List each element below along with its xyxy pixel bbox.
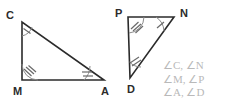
angle-mark-P: [129, 17, 144, 33]
vertex-label-M: M: [13, 86, 22, 97]
vertex-label-C: C: [6, 10, 14, 21]
angle-correspondence-list: ∠C, ∠N ∠M, ∠P ∠A, ∠D: [163, 59, 204, 100]
geometry-figure: C M A P N D ∠C, ∠N ∠M, ∠P ∠A, ∠D: [0, 0, 226, 105]
tick-M-1: [26, 67, 34, 74]
vertex-label-N: N: [180, 8, 188, 19]
angle-pair-row-3: ∠A, ∠D: [163, 86, 204, 100]
vertex-label-D: D: [127, 84, 135, 95]
angle-pair-row-2: ∠M, ∠P: [163, 73, 204, 87]
angle-pair-row-1: ∠C, ∠N: [163, 59, 204, 73]
vertex-label-P: P: [115, 8, 122, 19]
tick-M-2: [29, 66, 37, 73]
vertex-label-A: A: [101, 86, 109, 97]
angle-mark-M: [22, 64, 38, 80]
angle-mark-N: [156, 17, 164, 31]
